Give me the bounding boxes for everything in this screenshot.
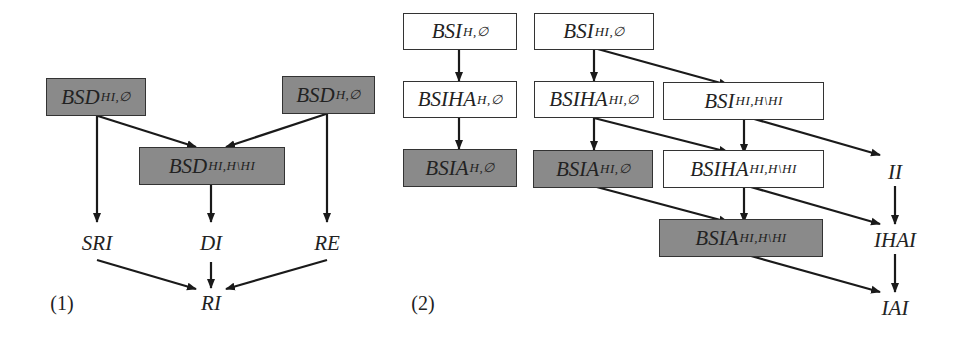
node-bsi-hi-h-minus-hi: BSIHI,H\HI [663,82,824,120]
node-subscript: HI,∅ [595,24,625,40]
edge-bsihahi-to-bsihahih [594,118,728,152]
node-subscript: H,∅ [336,87,361,103]
edge-re-to-ri [226,260,327,289]
diagram2-caption: (2) [411,292,434,315]
edge-bsihi-to-bsihih [594,48,728,85]
node-subscript: H,∅ [463,24,488,40]
node-main-label: BSD [61,85,100,110]
edge-sri-to-ri [97,260,196,289]
node-ii: II [888,160,902,185]
node-main-label: BSD [169,154,208,179]
node-re: RE [314,231,340,256]
node-bsia-h-empty: BSIAH,∅ [403,149,517,187]
edge-bsiahih-to-iai [744,254,880,292]
node-bsd-hi-empty: BSDHI,∅ [46,78,146,116]
node-subscript: HI,H\HI [739,230,786,246]
diagram1-caption: (1) [50,292,73,315]
node-bsiha-hi-h-minus-hi: BSIHAHI,H\HI [663,150,824,188]
node-main-label: BSI [563,19,593,44]
node-main-label: BSD [296,83,335,108]
node-bsd-hi-h-minus-hi: BSDHI,H\HI [139,147,285,185]
node-subscript: HI,H\HI [750,161,797,177]
node-subscript: HI,∅ [600,161,630,177]
node-iai: IAI [882,296,909,321]
node-subscript: HI,H\HI [208,158,255,174]
node-main-label: BSIA [556,157,599,182]
node-main-label: BSIHA [549,87,607,112]
node-di: DI [200,231,222,256]
edge-bsiahi-to-bsiahih [593,186,728,222]
node-subscript: H,∅ [477,92,502,108]
node-bsia-hi-empty: BSIAHI,∅ [533,150,653,188]
node-ihai: IHAI [874,228,916,253]
node-subscript: HI,∅ [609,92,639,108]
node-main-label: BSIHA [690,157,748,182]
node-bsia-hi-h-minus-hi: BSIAHI,H\HI [659,219,823,257]
node-bsi-h-empty: BSIH,∅ [403,13,517,50]
node-main-label: BSIHA [418,87,476,112]
node-subscript: HI,∅ [101,89,131,105]
node-bsd-h-empty: BSDH,∅ [282,76,375,114]
node-sri: SRI [82,231,112,256]
edge-bsdh-to-bsdhih [226,114,326,147]
node-bsi-hi-empty: BSIHI,∅ [534,13,654,50]
node-main-label: BSIA [425,156,468,181]
diagram-canvas: BSDHI,∅ BSDH,∅ BSDHI,H\HI SRI DI RE RI (… [0,0,965,345]
node-main-label: BSI [432,19,462,44]
edge-bsdhi-to-bsdhih [98,116,196,147]
node-bsiha-h-empty: BSIHAH,∅ [403,81,517,118]
node-main-label: BSI [704,89,734,114]
node-main-label: BSIA [695,226,738,251]
node-bsiha-hi-empty: BSIHAHI,∅ [534,81,654,118]
node-subscript: H,∅ [470,160,495,176]
node-ri: RI [201,291,221,316]
node-subscript: HI,H\HI [736,93,783,109]
